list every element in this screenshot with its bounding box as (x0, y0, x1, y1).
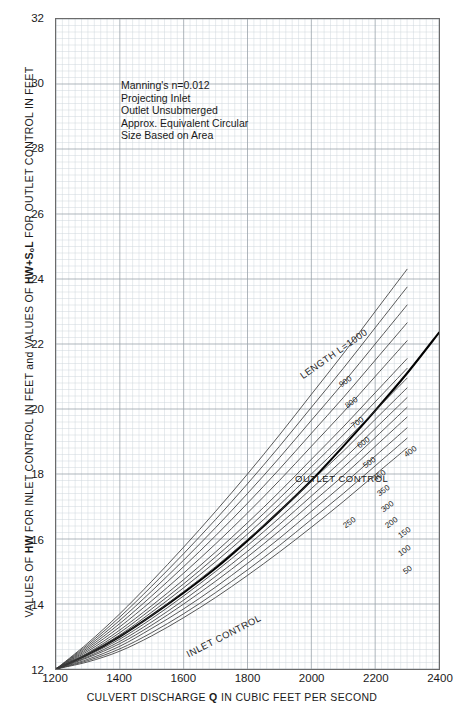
x-tick-label: 1200 (42, 672, 68, 684)
x-tick-label: 2000 (299, 672, 325, 684)
x-axis-title-symbol: Q (209, 691, 218, 703)
y-axis-title-symbol-1: HW (23, 535, 35, 553)
curve-layer (56, 19, 439, 669)
x-axis-title: CULVERT DISCHARGE Q IN CUBIC FEET PER SE… (0, 691, 464, 703)
plot-area: Manning's n=0.012 Projecting Inlet Outle… (55, 18, 440, 670)
y-axis-title-part2: FOR INLET CONTROL IN FEET and VALUES OF (23, 284, 35, 535)
y-axis-title-symbol-2: HW+SₒL (23, 241, 35, 284)
x-tick-label: 1600 (171, 672, 197, 684)
y-tick-label: 18 (0, 468, 44, 480)
y-tick-label: 22 (0, 338, 44, 350)
x-axis-title-part2: IN CUBIC FEET PER SECOND (218, 691, 378, 703)
x-tick-label: 1400 (106, 672, 132, 684)
x-axis-title-part1: CULVERT DISCHARGE (87, 691, 209, 703)
y-axis-title-part3: FOR OUTLET CONTROL IN FEET (23, 67, 35, 241)
y-tick-label: 20 (0, 403, 44, 415)
y-tick-label: 30 (0, 77, 44, 89)
x-tick-label: 2400 (427, 672, 453, 684)
culvert-performance-chart: 3230282624222018161412 Manning's n=0.012… (0, 0, 464, 714)
x-tick-label: 1800 (235, 672, 261, 684)
y-tick-label: 26 (0, 208, 44, 220)
y-axis-title: VALUES OF HW FOR INLET CONTROL IN FEET a… (23, 12, 35, 672)
y-tick-label: 32 (0, 12, 44, 24)
y-tick-label: 14 (0, 599, 44, 611)
x-tick-label: 2200 (363, 672, 389, 684)
y-tick-label: 16 (0, 534, 44, 546)
y-tick-label: 24 (0, 273, 44, 285)
y-tick-label: 28 (0, 142, 44, 154)
y-axis-title-part1: VALUES OF (23, 553, 35, 617)
